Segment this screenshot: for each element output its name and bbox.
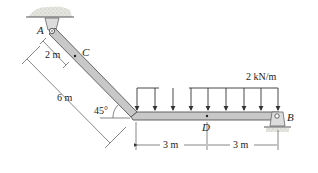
left-span-label: 3 m [163, 139, 179, 150]
dim-ac-label: 2 m [45, 49, 61, 60]
label-a: A [36, 24, 44, 36]
ceiling-support-a [26, 6, 74, 30]
horizontal-member [131, 112, 279, 120]
inclined-member [49, 28, 137, 117]
dim-inclined-label: 6 m [57, 92, 73, 103]
point-d-marker [206, 115, 208, 117]
load-label: 2 kN/m [246, 71, 277, 82]
beam-diagram: A C D B 2 kN/m 2 m 6 m 45° 3 m 3 m [0, 0, 318, 173]
label-d: D [201, 121, 210, 133]
distributed-load [137, 88, 278, 110]
angle-label: 45° [94, 105, 108, 116]
label-b: B [287, 111, 294, 123]
label-c: C [82, 46, 90, 58]
right-span-label: 3 m [233, 139, 249, 150]
dimension-inclined [22, 46, 126, 148]
point-c-marker [74, 55, 76, 57]
